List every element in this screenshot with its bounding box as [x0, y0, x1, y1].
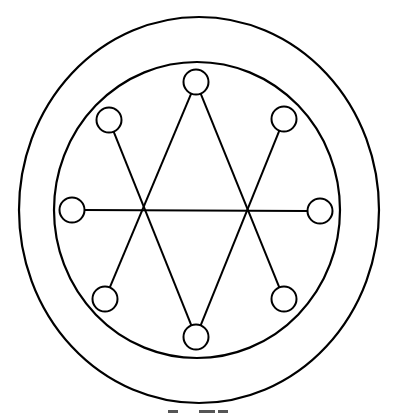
node-lower-left: [93, 287, 118, 312]
figure-caption-fragment: [168, 410, 232, 416]
node-right: [308, 199, 333, 224]
line-bottom-to-upper-right: [201, 131, 280, 326]
line-top-to-lower-right: [201, 94, 280, 288]
diagram-canvas: [0, 0, 398, 416]
node-upper-right: [272, 107, 297, 132]
node-left: [60, 198, 85, 223]
node-bottom: [184, 325, 209, 350]
node-upper-left: [97, 108, 122, 133]
node-lower-right: [272, 287, 297, 312]
line-bottom-to-upper-left: [114, 132, 192, 326]
line-left-to-right: [84, 210, 307, 211]
node-top: [184, 70, 209, 95]
